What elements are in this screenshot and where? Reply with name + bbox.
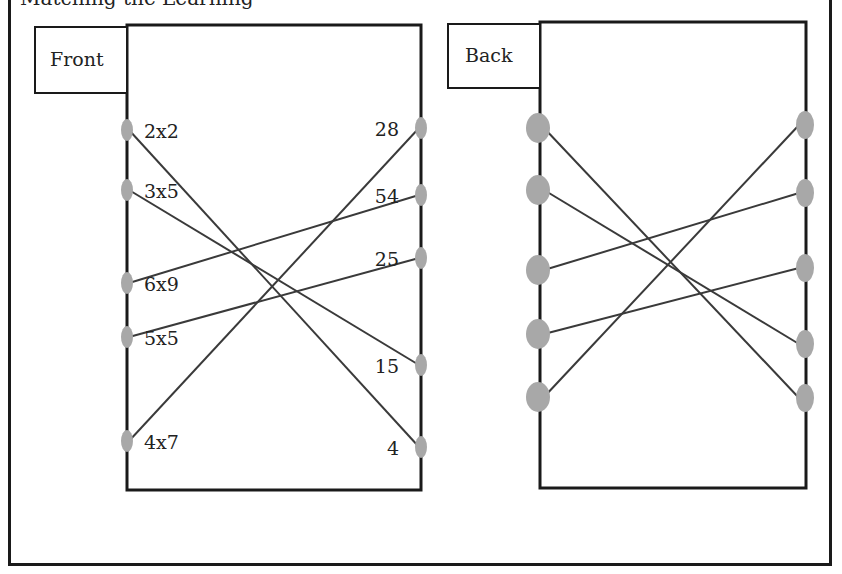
front-left-dot[interactable] — [121, 326, 133, 348]
back-right-dot[interactable] — [796, 254, 814, 282]
back-label: Back — [465, 44, 513, 66]
back-left-dot[interactable] — [526, 175, 550, 205]
front-card: Front 2x23x56x95x54x7285425154 — [35, 25, 427, 490]
connection-line[interactable] — [544, 193, 799, 270]
front-left-dot[interactable] — [121, 119, 133, 141]
front-left-dot[interactable] — [121, 430, 133, 452]
front-right-item-label: 4 — [387, 437, 399, 459]
front-label: Front — [50, 48, 104, 70]
front-right-dot[interactable] — [415, 184, 427, 206]
front-left-dot[interactable] — [121, 272, 133, 294]
front-right-dot[interactable] — [415, 117, 427, 139]
back-panel — [540, 22, 806, 488]
back-right-dot[interactable] — [796, 111, 814, 139]
connection-line[interactable] — [544, 190, 799, 344]
front-right-dot[interactable] — [415, 247, 427, 269]
back-right-dot[interactable] — [796, 384, 814, 412]
connection-line[interactable] — [544, 268, 799, 334]
front-left-item-label: 2x2 — [144, 120, 179, 142]
back-left-dot[interactable] — [526, 255, 550, 285]
front-right-dot[interactable] — [415, 354, 427, 376]
front-left-item-label: 5x5 — [144, 327, 179, 349]
back-left-dot[interactable] — [526, 113, 550, 143]
back-left-dot[interactable] — [526, 319, 550, 349]
back-left-dot[interactable] — [526, 382, 550, 412]
front-right-item-label: 25 — [375, 248, 399, 270]
front-right-item-label: 15 — [375, 355, 399, 377]
front-left-item-label: 4x7 — [144, 431, 179, 453]
front-right-dot[interactable] — [415, 436, 427, 458]
back-card: Back — [448, 22, 814, 488]
front-left-dot[interactable] — [121, 179, 133, 201]
front-right-item-label: 54 — [375, 185, 399, 207]
front-left-item-label: 6x9 — [144, 273, 179, 295]
back-right-dot[interactable] — [796, 179, 814, 207]
front-right-item-label: 28 — [375, 118, 399, 140]
back-connection-lines — [544, 125, 799, 398]
front-left-item-label: 3x5 — [144, 180, 179, 202]
back-right-dot[interactable] — [796, 330, 814, 358]
matching-diagram: Front 2x23x56x95x54x7285425154 Back — [0, 0, 842, 574]
